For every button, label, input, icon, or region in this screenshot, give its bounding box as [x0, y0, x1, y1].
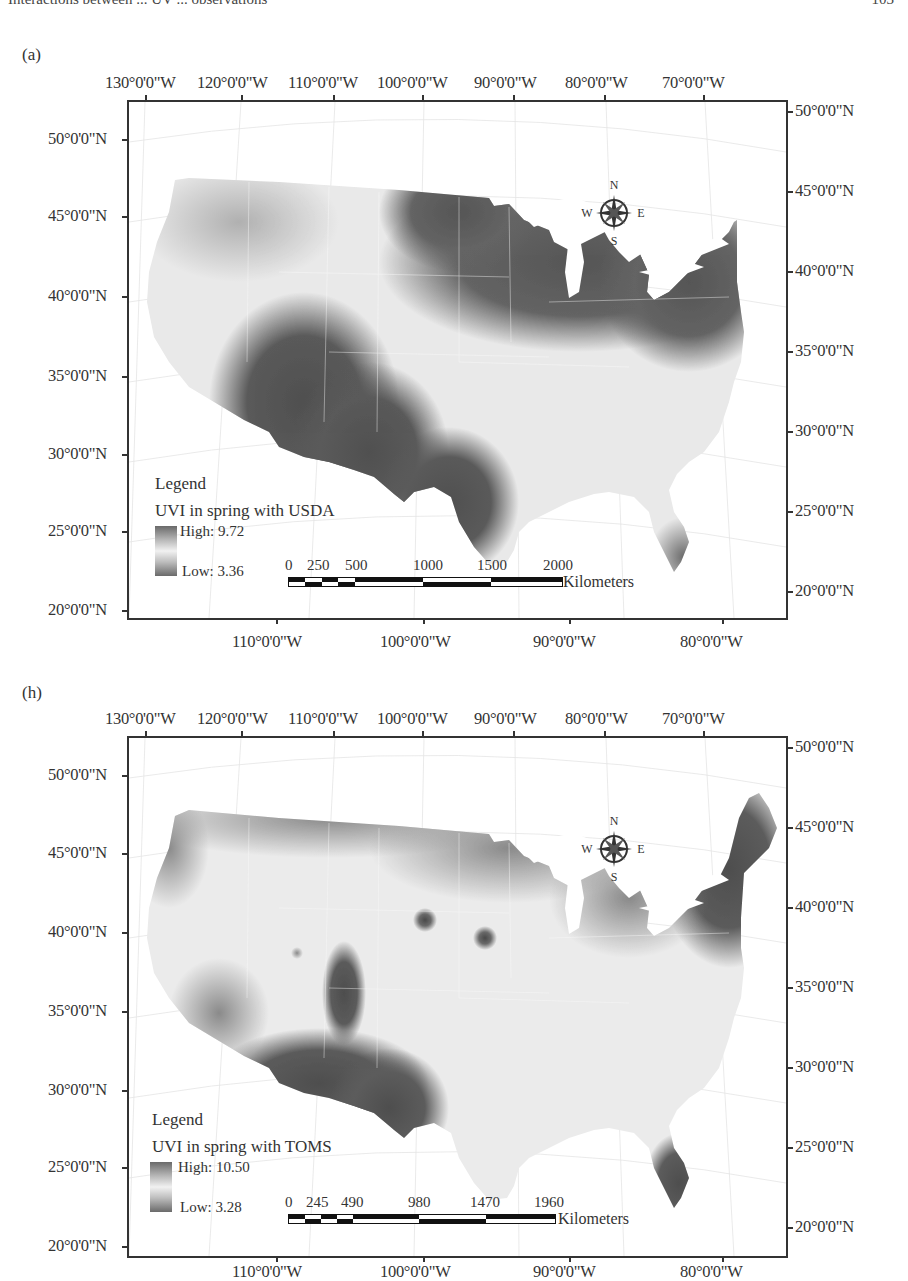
lat-right-35-b: 35°0'0"N: [795, 977, 854, 997]
lat-left-20-b: 20°0'0"N: [48, 1236, 107, 1256]
lon-bottom-110-b: 110°0'0"W: [232, 1262, 302, 1281]
lat-right-40-b: 40°0'0"N: [795, 897, 854, 917]
legend-ramp-b: [150, 1162, 172, 1212]
panel-b: (h) 130°0'0"W 120°0'0"W 110°0'0"W 100°0'…: [0, 0, 908, 1281]
lon-top-110-b: 110°0'0"W: [288, 709, 358, 729]
lat-left-35-b: 35°0'0"N: [48, 1001, 107, 1021]
legend-high-b: High: 10.50: [178, 1159, 250, 1176]
lat-left-45-b: 45°0'0"N: [48, 843, 107, 863]
lon-top-90-b: 90°0'0"W: [474, 709, 536, 729]
panel-label-b: (h): [22, 683, 42, 703]
lon-bottom-100-b: 100°0'0"W: [380, 1262, 450, 1281]
legend-subtitle-b: UVI in spring with TOMS: [152, 1137, 332, 1157]
lon-top-130-b: 130°0'0"W: [105, 709, 175, 729]
svg-text:S: S: [611, 870, 618, 883]
map-frame-b: N S W E: [127, 736, 788, 1258]
lat-left-50-b: 50°0'0"N: [48, 765, 107, 785]
compass-rose-b: N S W E: [579, 813, 649, 883]
svg-text:N: N: [610, 814, 619, 828]
lon-top-80-b: 80°0'0"W: [565, 709, 627, 729]
svg-text:W: W: [581, 842, 593, 856]
lon-bottom-90-b: 90°0'0"W: [533, 1262, 595, 1281]
us-uvi-map-b: [129, 738, 786, 1256]
lat-right-20-b: 20°0'0"N: [795, 1217, 854, 1237]
lon-top-70-b: 70°0'0"W: [662, 709, 724, 729]
lat-right-50-b: 50°0'0"N: [795, 737, 854, 757]
lat-right-30-b: 30°0'0"N: [795, 1057, 854, 1077]
legend-b: Legend: [152, 1110, 203, 1130]
lat-left-25-b: 25°0'0"N: [48, 1157, 107, 1177]
legend-subtitle-b-wrap: UVI in spring with TOMS: [152, 1135, 332, 1157]
lat-right-25-b: 25°0'0"N: [795, 1137, 854, 1157]
lon-bottom-80-b: 80°0'0"W: [680, 1262, 742, 1281]
legend-title-b: Legend: [152, 1110, 203, 1130]
lat-left-30-b: 30°0'0"N: [48, 1080, 107, 1100]
compass-icon: N S W E: [579, 813, 649, 883]
lon-top-100-b: 100°0'0"W: [377, 709, 447, 729]
lat-right-45-b: 45°0'0"N: [795, 817, 854, 837]
legend-low-b: Low: 3.28: [180, 1199, 242, 1216]
lon-top-120-b: 120°0'0"W: [197, 709, 267, 729]
svg-text:E: E: [637, 842, 644, 856]
lat-left-40-b: 40°0'0"N: [48, 922, 107, 942]
